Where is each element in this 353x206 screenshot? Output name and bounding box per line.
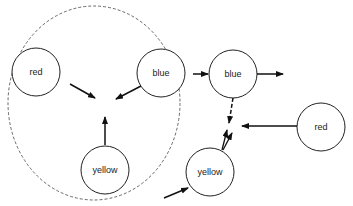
diagram-canvas: red blue yellow blue red yellow bbox=[0, 0, 353, 206]
node-yellow-left[interactable]: yellow bbox=[81, 146, 129, 194]
edge-red-to-center bbox=[70, 84, 95, 98]
node-label: red bbox=[29, 67, 42, 77]
node-yellow-right[interactable]: yellow bbox=[186, 148, 234, 196]
node-blue-left[interactable]: blue bbox=[137, 49, 185, 97]
node-label: yellow bbox=[197, 167, 223, 177]
node-label: red bbox=[314, 122, 327, 132]
edge-in-to-yellow bbox=[164, 188, 188, 198]
edge-blue-to-yellow-dashed bbox=[229, 98, 233, 123]
node-label: yellow bbox=[92, 165, 118, 175]
node-red-left[interactable]: red bbox=[12, 48, 60, 96]
node-label: blue bbox=[224, 69, 241, 79]
node-label: blue bbox=[152, 68, 169, 78]
node-red-right[interactable]: red bbox=[297, 103, 345, 151]
edge-blue-to-center bbox=[116, 86, 141, 99]
node-blue-right[interactable]: blue bbox=[209, 50, 257, 98]
